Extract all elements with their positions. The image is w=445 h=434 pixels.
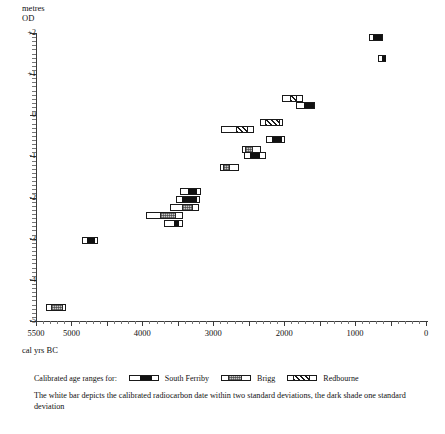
x-tick-major — [284, 321, 285, 326]
x-tick-minor — [171, 321, 172, 324]
date-range-bar-inner — [373, 35, 382, 40]
x-tick-major — [36, 321, 37, 326]
date-range-bar-inner — [160, 213, 176, 218]
legend-item: Redbourne — [287, 373, 358, 383]
date-range-bar-inner — [87, 238, 95, 243]
x-tick-major — [142, 321, 143, 326]
date-range-bar — [244, 152, 266, 159]
x-tick-minor — [263, 321, 264, 324]
plot-area — [36, 33, 426, 321]
x-tick-minor — [50, 321, 51, 324]
date-range-bar-inner — [223, 165, 230, 170]
x-tick-minor — [277, 321, 278, 324]
y-tick-label: +1 — [10, 70, 36, 78]
date-range-bar-inner — [236, 127, 248, 132]
legend-item: Brigg — [221, 373, 275, 383]
date-range-bar-inner — [182, 197, 196, 202]
legend: Calibrated age ranges for: South Ferriby… — [34, 373, 370, 383]
x-tick-minor — [298, 321, 299, 324]
date-range-bar — [282, 95, 303, 102]
y-tick-label: -4 — [10, 276, 36, 284]
date-range-bar-inner — [272, 137, 283, 142]
x-tick-minor — [405, 321, 406, 324]
y-tick-label: -1 — [10, 152, 36, 160]
x-tick-minor — [227, 321, 228, 324]
x-tick-label: 5500 — [28, 328, 45, 338]
x-tick-minor — [199, 321, 200, 324]
y-tick-label: -2 — [10, 194, 36, 202]
x-tick-minor — [256, 321, 257, 324]
date-range-bar — [220, 164, 238, 171]
x-tick-major — [355, 321, 356, 326]
x-tick-minor — [100, 321, 101, 324]
legend-swatch — [129, 375, 159, 381]
x-tick-label: 3000 — [205, 328, 222, 338]
x-tick-label: 5000 — [63, 328, 80, 338]
x-tick-minor — [149, 321, 150, 324]
date-range-bar — [180, 188, 201, 195]
date-range-bar — [82, 237, 98, 244]
x-tick-label: 1000 — [347, 328, 364, 338]
date-range-bar-inner — [290, 96, 297, 101]
date-range-bar-inner — [265, 120, 281, 125]
date-range-bar-inner — [250, 153, 260, 158]
x-tick-minor — [362, 321, 363, 324]
y-axis-title: metresOD — [22, 4, 45, 23]
x-tick-major — [426, 321, 427, 326]
y-axis-title-line2: OD — [22, 13, 34, 23]
x-tick-major — [320, 321, 321, 326]
x-tick-minor — [128, 321, 129, 324]
x-tick-major — [213, 321, 214, 326]
date-range-bar-inner — [245, 147, 253, 152]
x-tick-minor — [206, 321, 207, 324]
x-tick-major — [391, 321, 392, 326]
date-range-bar — [170, 204, 199, 211]
legend-lead-text: Calibrated age ranges for: — [34, 374, 117, 383]
x-tick-major — [71, 321, 72, 326]
x-tick-label: 0 — [424, 328, 428, 338]
x-tick-minor — [341, 321, 342, 324]
x-tick-minor — [398, 321, 399, 324]
date-range-bar — [146, 212, 184, 219]
x-tick-minor — [327, 321, 328, 324]
legend-swatch-inner — [228, 376, 242, 380]
legend-swatch — [287, 375, 317, 381]
x-tick-minor — [270, 321, 271, 324]
date-range-bar — [46, 304, 66, 311]
x-tick-minor — [419, 321, 420, 324]
x-tick-minor — [57, 321, 58, 324]
x-tick-minor — [305, 321, 306, 324]
x-tick-minor — [79, 321, 80, 324]
y-tick-label: -5 — [10, 317, 36, 325]
legend-label: Redbourne — [323, 374, 358, 383]
x-tick-label: 4000 — [134, 328, 151, 338]
date-range-bar-inner — [174, 221, 179, 226]
x-tick-major — [107, 321, 108, 326]
date-range-bar — [221, 126, 254, 133]
date-range-bar — [369, 34, 383, 41]
date-range-bar-inner — [304, 103, 315, 108]
x-tick-minor — [369, 321, 370, 324]
x-tick-minor — [348, 321, 349, 324]
x-tick-minor — [376, 321, 377, 324]
x-tick-minor — [86, 321, 87, 324]
x-tick-minor — [114, 321, 115, 324]
x-tick-minor — [192, 321, 193, 324]
x-tick-minor — [235, 321, 236, 324]
x-tick-label: 2000 — [276, 328, 293, 338]
legend-swatch — [221, 375, 251, 381]
date-range-bar-inner — [182, 205, 193, 210]
x-tick-minor — [164, 321, 165, 324]
y-tick-label: +2 — [10, 29, 36, 37]
y-tick-label: -3 — [10, 235, 36, 243]
legend-label: Brigg — [257, 374, 275, 383]
x-tick-minor — [93, 321, 94, 324]
x-tick-minor — [412, 321, 413, 324]
date-range-bar — [164, 220, 182, 227]
x-tick-minor — [121, 321, 122, 324]
x-axis-title: cal yrs BC — [22, 345, 58, 355]
x-tick-major — [249, 321, 250, 326]
date-range-bar-inner — [382, 56, 386, 61]
x-tick-minor — [242, 321, 243, 324]
date-range-bar — [296, 102, 316, 109]
